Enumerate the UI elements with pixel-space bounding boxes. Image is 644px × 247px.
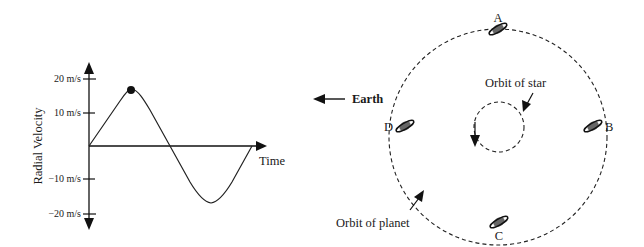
tick-label-20: 20 m/s (54, 73, 81, 84)
y-axis-label: Radial Velocity (31, 107, 45, 185)
earth-label: Earth (352, 92, 383, 106)
planet-d (394, 117, 416, 134)
orbit-diagram: Earth Orbit of star Orbit of planet (313, 11, 613, 245)
radial-velocity-graph: 20 m/s 10 m/s −10 m/s −20 m/s Radial Vel… (31, 62, 285, 230)
star-orbit (474, 102, 524, 152)
x-axis-arrow-icon (256, 141, 267, 151)
tick-label-neg20: −20 m/s (48, 208, 81, 219)
position-label-a: A (493, 11, 502, 25)
position-label-c: C (495, 229, 503, 243)
planet-orbit (389, 29, 607, 245)
tick-label-10: 10 m/s (54, 107, 81, 118)
y-axis-up-arrow-icon (84, 62, 94, 74)
planet-orbit-pointer-head-icon (414, 190, 424, 202)
figure: 20 m/s 10 m/s −10 m/s −20 m/s Radial Vel… (0, 0, 644, 247)
planet-orbit-pointer (410, 198, 419, 210)
x-axis-label: Time (259, 154, 285, 168)
position-label-d: D (384, 120, 393, 134)
star-orbit-pointer-head-icon (522, 100, 531, 112)
star-orbit-label: Orbit of star (485, 76, 547, 90)
peak-marker-dot (127, 86, 135, 94)
y-axis-down-arrow-icon (84, 218, 94, 230)
planet-orbit-label: Orbit of planet (336, 216, 410, 230)
tick-label-neg10: −10 m/s (48, 173, 81, 184)
star-orbit-pointer (527, 93, 533, 104)
position-label-b: B (605, 120, 613, 134)
planet-b (582, 117, 604, 134)
earth-arrow-head-icon (313, 94, 325, 104)
